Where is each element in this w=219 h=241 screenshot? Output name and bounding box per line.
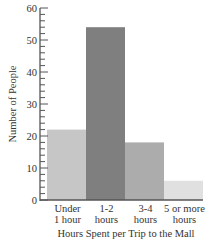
y-tick-label: 10 [27,163,38,174]
x-tick-label: hours [173,214,196,225]
bar-2 [125,142,164,200]
bar-0 [47,130,86,200]
y-tick-label: 20 [27,131,38,142]
x-axis-title: Hours Spent per Trip to the Mall [57,228,194,239]
x-tick-label: hours [95,214,118,225]
bar-1 [86,27,125,200]
x-tick-label: Under [54,203,81,214]
bars-group [47,27,203,200]
y-tick-label: 30 [27,99,38,110]
y-tick-label: 0 [32,195,37,206]
x-tick-label: 3-4 [139,203,154,214]
y-tick-label: 50 [27,35,38,46]
histogram-chart: 0102030405060 Under1 hour1-2hours3-4hour… [0,0,219,241]
x-axis: Under1 hour1-2hours3-4hours5 or morehour… [40,200,205,225]
y-tick-label: 60 [27,3,38,14]
x-tick-label: hours [134,214,157,225]
x-tick-label: 1 hour [54,214,82,225]
x-tick-label: 5 or more [164,203,205,214]
y-tick-label: 40 [27,67,38,78]
bar-3 [164,181,203,200]
y-axis-title: Number of People [7,65,18,142]
x-tick-label: 1-2 [100,203,114,214]
y-axis: 0102030405060 [27,3,49,206]
